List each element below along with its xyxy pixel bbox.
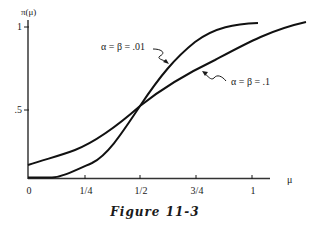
- y-tick-label-half: .5: [8, 105, 22, 115]
- figure-caption: Figure 11-3: [0, 205, 310, 219]
- arrowhead-alpha-0-01: [163, 59, 169, 64]
- x-axis-label: μ: [287, 175, 292, 185]
- y-axis-label: π(μ): [21, 8, 36, 17]
- annotation-alpha-0-1: α = β = .1: [231, 77, 270, 87]
- y-tick-label-1: 1: [8, 22, 22, 32]
- x-tick-label-q1: 1/4: [80, 186, 93, 196]
- x-tick-label-1: 1: [251, 186, 256, 196]
- x-tick-label-0: 0: [27, 186, 32, 196]
- annotation-arrow-alpha-0-01: [153, 49, 167, 62]
- annotation-arrow-alpha-0-1: [204, 73, 226, 81]
- power-curve-figure: π(μ) μ 1 .5 0 1/4 1/2 3/4 1 α = β = .01 …: [0, 0, 310, 229]
- chart-canvas: [0, 0, 310, 229]
- annotation-alpha-0-01: α = β = .01: [101, 42, 145, 52]
- curve-alpha-0-1: [28, 22, 306, 165]
- x-tick-label-q2: 1/2: [135, 186, 148, 196]
- x-tick-label-q3: 3/4: [191, 186, 204, 196]
